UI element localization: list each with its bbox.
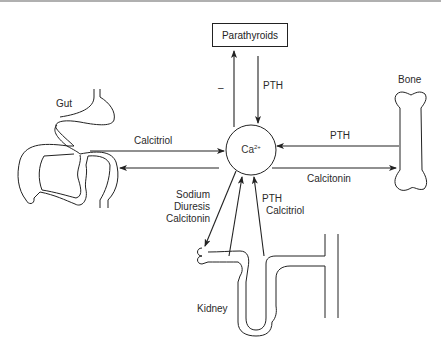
calcium-text: Ca	[241, 144, 254, 155]
parathyroids-node: Parathyroids	[212, 23, 288, 47]
sodium-label: Sodium	[160, 189, 210, 201]
calcitriol-gut-label: Calcitriol	[134, 135, 172, 147]
parathyroids-label: Parathyroids	[222, 30, 278, 41]
calcium-charge: 2+	[254, 144, 261, 150]
kidney-label: Kidney	[197, 303, 228, 315]
bone-label: Bone	[398, 74, 421, 86]
kidney-illustration	[198, 234, 339, 336]
ca-to-kidney-labels: Sodium Diuresis Calcitonin	[160, 189, 210, 225]
pth-bone-label: PTH	[330, 130, 350, 142]
calcium-label: Ca2+	[226, 144, 276, 155]
negative-feedback-label: –	[218, 82, 224, 94]
pth-parathyroid-label: PTH	[263, 80, 283, 92]
arrow-kidney-to-ca-1	[229, 177, 242, 256]
pth-kidney-label: PTH	[262, 193, 304, 205]
calcitonin-bone-label: Calcitonin	[307, 173, 351, 185]
gut-label: Gut	[56, 98, 72, 110]
kidney-to-ca-labels: PTH Calcitriol	[262, 193, 304, 217]
calcitonin-kidney-label: Calcitonin	[160, 213, 210, 225]
diuresis-label: Diuresis	[160, 201, 210, 213]
calcitriol-kidney-label: Calcitriol	[266, 205, 304, 217]
bone-illustration	[395, 92, 427, 190]
diagram-lines	[0, 0, 441, 343]
